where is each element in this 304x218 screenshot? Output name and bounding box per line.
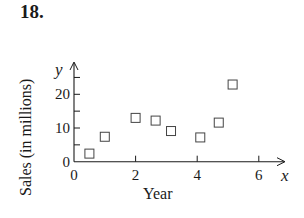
data-point [214,118,223,127]
data-point [100,132,109,141]
y-tick-label: 0 [63,154,71,170]
data-point [151,116,160,125]
data-point [131,113,140,122]
data-point [228,80,237,89]
y-tick-label: 20 [55,86,70,102]
x-tick-label: 2 [132,167,140,183]
data-point [167,127,176,136]
x-tick-label: 4 [193,167,201,183]
data-point [85,149,94,158]
x-tick-label: 0 [70,167,78,183]
y-tick-label: 10 [55,120,70,136]
x-axis-variable: x [280,166,289,185]
x-tick-label: 6 [255,167,263,183]
y-axis-variable: y [53,60,63,79]
data-point [196,133,205,142]
scatter-plot: 024601020xy [0,0,304,218]
